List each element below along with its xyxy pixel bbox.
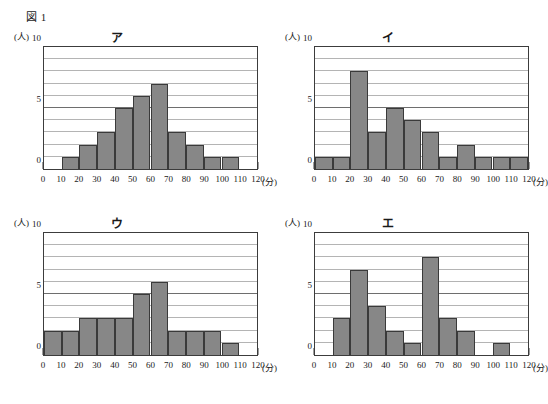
histogram-bar	[422, 257, 440, 355]
y-axis-tick-label-0: 0	[37, 342, 42, 351]
x-axis-tick-label-50: 50	[399, 175, 408, 184]
x-axis-tick-label-70: 70	[435, 361, 444, 370]
x-axis-tick-label-20: 20	[345, 361, 354, 370]
x-axis-tick-label-90: 90	[200, 361, 209, 370]
x-axis-tick-label-90: 90	[200, 175, 209, 184]
x-axis-unit-label: (分)	[533, 175, 548, 188]
axis-tick-mark-120	[258, 162, 259, 169]
axis-inner-ticks	[314, 156, 529, 170]
chart-title-text: ア	[111, 28, 124, 46]
x-axis-tick-label-20: 20	[74, 175, 83, 184]
x-axis-tick-label-20: 20	[74, 361, 83, 370]
x-axis-tick-label-10: 10	[56, 361, 65, 370]
x-axis-tick-label-50: 50	[399, 361, 408, 370]
axis-inner-ticks	[43, 342, 258, 356]
x-axis-tick-label-30: 30	[92, 175, 101, 184]
x-axis-tick-label-60: 60	[417, 361, 426, 370]
y-axis-tick-label-10: 10	[32, 220, 41, 229]
x-axis-tick-label-100: 100	[215, 361, 229, 370]
y-axis-tick-label-5: 5	[37, 95, 42, 104]
y-axis-tick-label-10: 10	[303, 220, 312, 229]
x-axis-tick-label-60: 60	[146, 361, 155, 370]
axis-tick-mark-120	[529, 162, 530, 169]
y-axis-tick-label-5: 5	[308, 95, 313, 104]
y-axis-tick-label-5: 5	[308, 281, 313, 290]
bars-layer	[44, 233, 257, 355]
chart-panel-イ: (人)イ05100102030405060708090100110120(分)	[271, 24, 542, 214]
y-axis-tick-label-0: 0	[308, 156, 313, 165]
y-axis-tick-label-10: 10	[303, 34, 312, 43]
x-axis-tick-label-80: 80	[182, 361, 191, 370]
y-axis-tick-label-10: 10	[32, 34, 41, 43]
bars-layer	[315, 233, 528, 355]
x-axis-tick-label-30: 30	[92, 361, 101, 370]
x-axis-tick-label-30: 30	[363, 361, 372, 370]
chart-title-text: イ	[382, 28, 395, 46]
x-axis-tick-labels: 0102030405060708090100110120(分)	[314, 356, 529, 378]
histogram-bar	[350, 71, 368, 169]
x-axis-tick-label-0: 0	[312, 175, 317, 184]
x-axis-tick-labels: 0102030405060708090100110120(分)	[314, 170, 529, 192]
x-axis-tick-label-10: 10	[56, 175, 65, 184]
x-axis-tick-label-50: 50	[128, 361, 137, 370]
x-axis-tick-label-70: 70	[164, 361, 173, 370]
axis-inner-ticks	[43, 156, 258, 170]
x-axis-tick-label-40: 40	[110, 361, 119, 370]
x-axis-tick-label-20: 20	[345, 175, 354, 184]
x-axis-unit-label: (分)	[533, 361, 548, 374]
x-axis-tick-label-40: 40	[381, 175, 390, 184]
chart-panel-エ: (人)エ05100102030405060708090100110120(分)	[271, 210, 542, 400]
bars-layer	[315, 47, 528, 169]
axis-tick-mark-120	[258, 348, 259, 355]
x-axis-tick-label-70: 70	[164, 175, 173, 184]
x-axis-tick-label-60: 60	[417, 175, 426, 184]
axis-tick-mark-0	[314, 162, 315, 169]
chart-panel-ア: (人)ア05100102030405060708090100110120(分)	[0, 24, 271, 214]
chart-panel-ウ: (人)ウ05100102030405060708090100110120(分)	[0, 210, 271, 400]
plot-area: 0510	[43, 46, 258, 170]
x-axis-tick-label-80: 80	[453, 175, 462, 184]
figure-label: 図 1	[26, 8, 47, 24]
x-axis-tick-label-70: 70	[435, 175, 444, 184]
axis-tick-mark-120	[529, 348, 530, 355]
axis-inner-ticks	[314, 342, 529, 356]
x-axis-tick-label-90: 90	[471, 361, 480, 370]
x-axis-tick-label-110: 110	[233, 361, 246, 370]
bars-layer	[44, 47, 257, 169]
x-axis-tick-label-0: 0	[41, 175, 46, 184]
x-axis-tick-label-100: 100	[486, 361, 500, 370]
x-axis-tick-label-110: 110	[504, 361, 517, 370]
y-axis-tick-label-0: 0	[308, 342, 313, 351]
x-axis-tick-label-0: 0	[312, 361, 317, 370]
x-axis-tick-label-30: 30	[363, 175, 372, 184]
x-axis-tick-labels: 0102030405060708090100110120(分)	[43, 356, 258, 378]
x-axis-tick-label-10: 10	[327, 175, 336, 184]
axis-tick-mark-0	[314, 348, 315, 355]
x-axis-tick-label-80: 80	[453, 361, 462, 370]
x-axis-tick-label-40: 40	[110, 175, 119, 184]
axis-tick-mark-0	[43, 348, 44, 355]
chart-title-text: エ	[382, 214, 395, 232]
plot-area: 0510	[314, 232, 529, 356]
chart-title-text: ウ	[111, 214, 124, 232]
x-axis-tick-label-90: 90	[471, 175, 480, 184]
charts-grid: (人)ア05100102030405060708090100110120(分)(…	[0, 24, 543, 404]
x-axis-tick-label-40: 40	[381, 361, 390, 370]
x-axis-tick-label-110: 110	[233, 175, 246, 184]
x-axis-tick-label-60: 60	[146, 175, 155, 184]
plot-area: 0510	[314, 46, 529, 170]
x-axis-tick-labels: 0102030405060708090100110120(分)	[43, 170, 258, 192]
y-axis-tick-label-5: 5	[37, 281, 42, 290]
x-axis-tick-label-100: 100	[215, 175, 229, 184]
x-axis-tick-label-50: 50	[128, 175, 137, 184]
x-axis-tick-label-100: 100	[486, 175, 500, 184]
x-axis-tick-label-80: 80	[182, 175, 191, 184]
y-axis-tick-label-0: 0	[37, 156, 42, 165]
x-axis-tick-label-110: 110	[504, 175, 517, 184]
plot-area: 0510	[43, 232, 258, 356]
axis-tick-mark-0	[43, 162, 44, 169]
x-axis-tick-label-10: 10	[327, 361, 336, 370]
x-axis-tick-label-0: 0	[41, 361, 46, 370]
